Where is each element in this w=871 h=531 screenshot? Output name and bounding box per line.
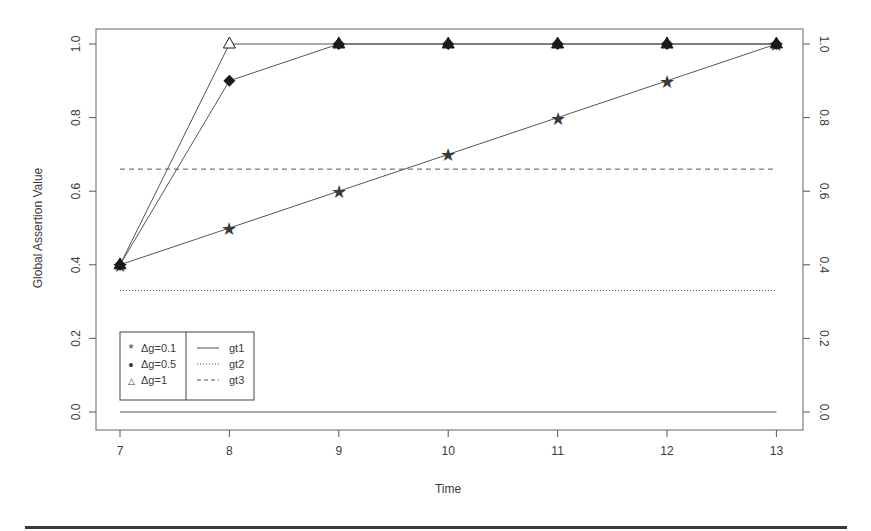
chart-canvas: 78910111213 0.00.20.40.60.81.0 0.00.20.4…	[0, 0, 871, 531]
x-tick-label: 7	[117, 444, 124, 458]
y-left-tick-label: 0.6	[69, 183, 83, 200]
y-right-tick-label: 0.0	[817, 404, 831, 421]
legend-label-dg-0-1: Δg=0.1	[141, 342, 176, 354]
star-marker: ★	[659, 72, 675, 92]
y-axis-title: Global Assertion Value	[31, 167, 45, 288]
series-markers: ★★★★★★★	[112, 35, 784, 276]
y-left-tick-label: 0.2	[69, 330, 83, 347]
y-right-tick-label: 0.4	[817, 256, 831, 273]
x-tick-label: 10	[442, 444, 456, 458]
x-axis: 78910111213	[117, 430, 784, 458]
x-tick-label: 13	[770, 444, 784, 458]
legend-label-gt2: gt2	[229, 358, 244, 370]
x-tick-label: 8	[226, 444, 233, 458]
triangle-marker	[223, 37, 235, 48]
y-right-tick-label: 0.8	[817, 109, 831, 126]
star-marker: ★	[550, 109, 566, 129]
star-marker: ★	[331, 182, 347, 202]
legend-label-gt1: gt1	[229, 342, 244, 354]
y-left-tick-label: 0.0	[69, 403, 83, 420]
y-left-tick-label: 0.8	[69, 109, 83, 126]
star-marker: ★	[440, 145, 456, 165]
y-right-tick-label: 0.6	[817, 183, 831, 200]
legend: * Δg=0.1 • Δg=0.5 △ Δg=1 gt1 gt2 gt3	[120, 332, 254, 400]
legend-symbol-dot: •	[129, 357, 134, 373]
y-left-tick-label: 1.0	[69, 35, 83, 52]
y-axis-left: 0.00.20.40.60.81.0	[69, 35, 96, 420]
legend-symbol-triangle: △	[128, 376, 135, 386]
x-tick-label: 12	[660, 444, 674, 458]
legend-label-dg-1: Δg=1	[141, 374, 167, 386]
y-right-tick-label: 0.2	[817, 330, 831, 347]
x-tick-label: 9	[335, 444, 342, 458]
legend-symbol-star: *	[128, 341, 133, 356]
legend-label-gt3: gt3	[229, 374, 244, 386]
y-right-tick-label: 1.0	[817, 36, 831, 53]
legend-label-dg-0-5: Δg=0.5	[141, 358, 176, 370]
x-axis-title: Time	[435, 482, 462, 496]
x-tick-label: 11	[551, 444, 564, 458]
bottom-rule	[25, 526, 847, 529]
line-chart: 78910111213 0.00.20.40.60.81.0 0.00.20.4…	[0, 0, 871, 531]
diamond-marker	[223, 75, 235, 87]
y-left-tick-label: 0.4	[69, 256, 83, 273]
star-marker: ★	[221, 219, 237, 239]
y-axis-right: 0.00.20.40.60.81.0	[803, 36, 831, 421]
